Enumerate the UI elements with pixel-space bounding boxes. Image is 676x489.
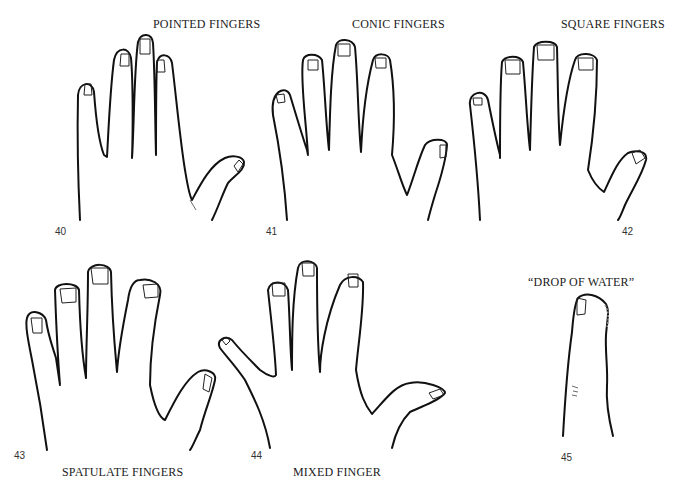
hand-pointed-fingers-drawing: [78, 35, 244, 220]
hand-conic-fingers-drawing: [273, 40, 447, 220]
hand-square-fingers-drawing: [470, 42, 646, 220]
hand-illustrations: [0, 0, 676, 489]
finger-drop-of-water-drawing: [563, 295, 613, 436]
hand-mixed-finger-drawing: [219, 261, 445, 448]
hand-spatulate-fingers-drawing: [26, 265, 215, 450]
